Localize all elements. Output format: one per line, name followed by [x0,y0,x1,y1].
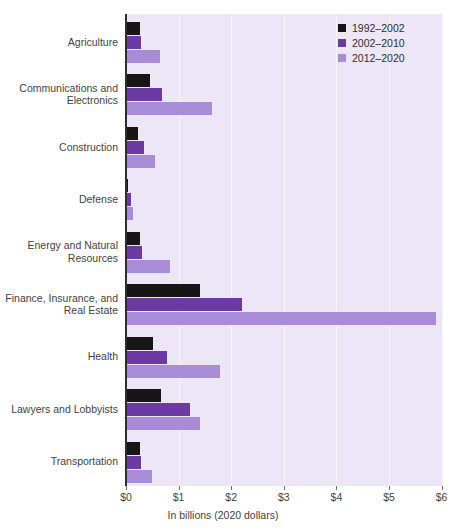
x-tick-mark [284,486,285,490]
bar [126,442,140,455]
legend: 1992–2002 2002–2010 2012–2020 [338,20,405,65]
category-label: Agriculture [0,36,118,49]
x-tick-label: $5 [369,491,409,503]
bar [126,403,190,416]
bar [126,389,161,402]
legend-label: 2012–2020 [352,52,405,64]
category-label: Finance, Insurance, and Real Estate [0,292,118,317]
bar-group [126,127,442,168]
bar [126,50,160,63]
bar [126,284,200,297]
x-tick-label: $4 [316,491,356,503]
bar [126,312,436,325]
bar [126,298,242,311]
plot-area [126,14,442,486]
x-tick-label: $0 [106,491,146,503]
bar [126,470,152,483]
bar [126,141,144,154]
x-tick-mark [179,486,180,490]
bar-group [126,74,442,115]
y-axis-line [125,14,127,486]
category-label: Health [0,350,118,363]
bar [126,88,162,101]
legend-label: 1992–2002 [352,22,405,34]
bar [126,232,140,245]
category-label: Transportation [0,455,118,468]
legend-label: 2002–2010 [352,37,405,49]
x-tick-mark [336,486,337,490]
x-tick-label: $2 [211,491,251,503]
bar [126,260,170,273]
legend-item: 1992–2002 [338,20,405,35]
x-tick-label: $6 [422,491,452,503]
x-tick-mark [442,486,443,490]
bar [126,36,141,49]
legend-item: 2002–2010 [338,35,405,50]
bar [126,246,142,259]
category-label: Defense [0,193,118,206]
bar [126,351,167,364]
bar [126,365,220,378]
x-tick-mark [126,486,127,490]
bar-group [126,284,442,325]
bar [126,207,133,220]
x-tick-label: $1 [159,491,199,503]
category-label: Lawyers and Lobbyists [0,403,118,416]
legend-swatch-icon [338,39,346,47]
bar-group [126,337,442,378]
bar [126,456,141,469]
bar-group [126,179,442,220]
category-label: Communications and Electronics [0,82,118,107]
bar [126,102,212,115]
legend-item: 2012–2020 [338,50,405,65]
x-tick-mark [231,486,232,490]
legend-swatch-icon [338,24,346,32]
category-label: Construction [0,141,118,154]
bar-group [126,442,442,483]
bar-group [126,389,442,430]
x-tick-label: $3 [264,491,304,503]
x-axis-title: In billions (2020 dollars) [0,509,446,521]
bar-group [126,232,442,273]
bar [126,22,140,35]
bar [126,337,153,350]
bar [126,127,138,140]
legend-swatch-icon [338,54,346,62]
category-label: Energy and Natural Resources [0,239,118,264]
x-tick-mark [389,486,390,490]
bar [126,155,155,168]
bar [126,417,200,430]
bar [126,74,150,87]
